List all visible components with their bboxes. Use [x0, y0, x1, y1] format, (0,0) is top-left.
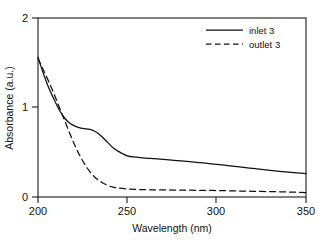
legend: inlet 3 outlet 3	[206, 25, 280, 50]
legend-label-outlet-3: outlet 3	[249, 39, 280, 50]
absorbance-spectrum-figure: 200 250 300 350 0 1 2 Wavelength (nm) Ab…	[0, 0, 324, 240]
series-line-inlet-3	[38, 57, 306, 173]
chart-canvas: 200 250 300 350 0 1 2 Wavelength (nm) Ab…	[0, 0, 324, 240]
y-axis-ticks	[32, 18, 38, 197]
x-axis-ticks	[38, 197, 306, 203]
x-axis-title: Wavelength (nm)	[132, 222, 212, 234]
x-tick-label-3: 350	[297, 205, 315, 217]
y-axis-title: Absorbance (a.u.)	[3, 66, 15, 149]
x-tick-label-0: 200	[29, 205, 47, 217]
series-line-outlet-3	[38, 58, 306, 192]
x-tick-label-1: 250	[118, 205, 136, 217]
x-tick-label-2: 300	[207, 205, 225, 217]
y-axis-tick-labels: 0 1 2	[22, 12, 28, 203]
legend-label-inlet-3: inlet 3	[249, 25, 274, 36]
y-tick-label-2: 2	[22, 12, 28, 24]
x-axis-tick-labels: 200 250 300 350	[29, 205, 315, 217]
data-series-group	[38, 57, 306, 192]
y-tick-label-1: 1	[22, 101, 28, 113]
y-tick-label-0: 0	[22, 191, 28, 203]
